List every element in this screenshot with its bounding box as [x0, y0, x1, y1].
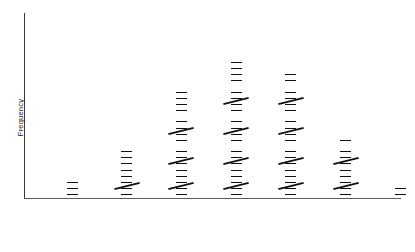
tally-bundle-of-five	[176, 149, 187, 174]
tally-mark	[340, 140, 351, 141]
tally-mark	[176, 104, 187, 105]
tally-mark	[231, 140, 242, 141]
tally-bundle-of-five	[231, 149, 242, 174]
tally-bundle-of-five	[231, 89, 242, 114]
tally-mark	[231, 74, 242, 75]
tally-mark	[285, 110, 296, 111]
tally-mark	[340, 151, 351, 152]
tally-mark	[176, 92, 187, 93]
tally-mark	[395, 194, 406, 195]
tally-mark	[340, 163, 351, 164]
tally-mark	[176, 98, 187, 99]
tally-mark	[285, 80, 296, 81]
tally-bundle-of-five	[285, 149, 296, 174]
tally-mark	[67, 194, 78, 195]
tally-bundle-of-five	[285, 173, 296, 198]
tally-mark	[176, 176, 187, 177]
tally-mark	[176, 170, 187, 171]
tally-mark	[340, 194, 351, 195]
tally-mark	[231, 110, 242, 111]
tally-mark	[121, 157, 132, 158]
tally-mark	[176, 121, 187, 122]
tally-mark	[231, 92, 242, 93]
tally-mark	[340, 182, 351, 183]
tally-mark	[340, 170, 351, 171]
tally-mark	[231, 134, 242, 135]
tally-bundle-of-five	[176, 173, 187, 198]
tally-mark	[231, 170, 242, 171]
tally-mark	[176, 151, 187, 152]
tally-mark	[176, 188, 187, 189]
tally-mark	[176, 134, 187, 135]
tally-bundle-of-five	[285, 89, 296, 114]
tally-mark	[121, 194, 132, 195]
tally-mark	[176, 194, 187, 195]
tally-mark	[176, 140, 187, 141]
tally-bundle-of-five	[340, 173, 351, 198]
tally-remainder-group	[340, 137, 351, 143]
tally-bundle-of-five	[231, 119, 242, 144]
tally-mark	[395, 188, 406, 189]
tally-mark	[285, 104, 296, 105]
tally-bundle-of-five	[176, 119, 187, 144]
tally-mark	[231, 151, 242, 152]
tally-mark	[285, 74, 296, 75]
tally-mark	[340, 176, 351, 177]
tally-mark	[231, 104, 242, 105]
tally-bundle-of-five	[231, 173, 242, 198]
tally-mark	[340, 188, 351, 189]
tally-mark	[285, 188, 296, 189]
tally-mark	[121, 163, 132, 164]
tally-mark	[285, 140, 296, 141]
tally-mark	[285, 170, 296, 171]
tally-mark	[231, 194, 242, 195]
tally-frequency-chart: Frequency 50,10051,20052,30053,40054,500…	[0, 0, 415, 252]
tally-mark	[67, 188, 78, 189]
tally-bundle-of-five	[285, 119, 296, 144]
tally-bundle-of-five	[121, 173, 132, 198]
tally-mark	[231, 62, 242, 63]
tally-mark	[176, 110, 187, 111]
tally-mark	[121, 170, 132, 171]
tally-remainder-group	[285, 72, 296, 84]
tally-bundle-of-five	[340, 149, 351, 174]
tally-mark	[67, 182, 78, 183]
tally-mark	[285, 176, 296, 177]
tally-mark	[285, 134, 296, 135]
tally-remainder-group	[176, 89, 187, 114]
tally-mark	[231, 121, 242, 122]
tally-mark	[231, 163, 242, 164]
tally-remainder-group	[231, 59, 242, 84]
tally-mark	[176, 163, 187, 164]
tally-mark	[231, 80, 242, 81]
tally-mark	[285, 92, 296, 93]
tally-remainder-group	[395, 186, 406, 198]
tally-remainder-group	[67, 179, 78, 198]
tally-mark	[231, 188, 242, 189]
tally-mark	[231, 68, 242, 69]
tally-mark	[285, 194, 296, 195]
tally-mark	[285, 163, 296, 164]
tally-mark	[285, 151, 296, 152]
x-axis-line	[24, 198, 401, 199]
y-axis-title: Frequency	[16, 78, 25, 158]
tally-remainder-group	[121, 149, 132, 174]
tally-mark	[285, 121, 296, 122]
tally-mark	[121, 188, 132, 189]
tally-mark	[121, 151, 132, 152]
tally-mark	[231, 176, 242, 177]
tally-mark	[121, 176, 132, 177]
